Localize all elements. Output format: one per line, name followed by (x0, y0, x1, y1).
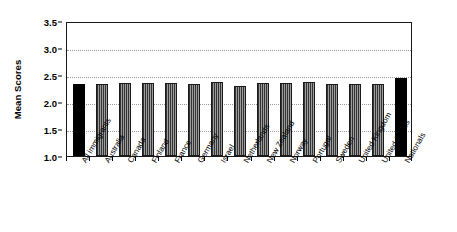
bar-chart: Mean Scores 1.01.52.02.53.03.5 All immig… (0, 0, 457, 232)
y-tick-mark (58, 157, 62, 158)
bar (234, 86, 246, 156)
y-tick-label: 3.5 (44, 17, 57, 28)
y-tick-mark (58, 103, 62, 104)
y-tick-mark (58, 22, 62, 23)
y-axis-title: Mean Scores (10, 34, 26, 144)
x-axis-category-labels: All immigrantsAustraliaCanadaFinlandFran… (0, 160, 457, 232)
y-tick-label: 1.5 (44, 125, 57, 136)
y-tick-label: 2.5 (44, 71, 57, 82)
y-tick-label: 2.0 (44, 98, 57, 109)
y-axis-title-text: Mean Scores (13, 59, 24, 119)
y-tick-mark (58, 130, 62, 131)
y-tick-mark (58, 49, 62, 50)
y-axis-tick-labels: 1.01.52.02.53.03.5 (26, 22, 62, 157)
bar (73, 84, 85, 156)
y-tick-label: 3.0 (44, 44, 57, 55)
y-tick-mark (58, 76, 62, 77)
